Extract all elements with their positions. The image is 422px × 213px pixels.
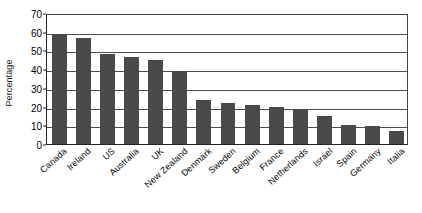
bar[interactable] bbox=[341, 125, 356, 144]
bar[interactable] bbox=[269, 107, 284, 144]
x-axis-tick-label: Israel bbox=[311, 146, 334, 169]
bar[interactable] bbox=[317, 116, 332, 144]
bar[interactable] bbox=[196, 100, 211, 144]
x-axis-tick-label: US bbox=[101, 146, 117, 162]
bar[interactable] bbox=[389, 131, 404, 144]
y-axis-title: Percentage bbox=[1, 28, 17, 138]
y-axis-tick-label: 20 bbox=[18, 102, 42, 113]
y-axis-tick-label: 0 bbox=[18, 140, 42, 151]
bar[interactable] bbox=[365, 126, 380, 144]
bar[interactable] bbox=[221, 103, 236, 144]
bar[interactable] bbox=[100, 54, 115, 144]
y-axis-tick-label: 70 bbox=[18, 9, 42, 20]
bar[interactable] bbox=[293, 109, 308, 144]
y-axis-tick-label: 50 bbox=[18, 46, 42, 57]
bar[interactable] bbox=[172, 71, 187, 144]
bar[interactable] bbox=[245, 105, 260, 144]
bar[interactable] bbox=[52, 34, 67, 144]
bar-chart: Percentage 010203040506070 CanadaIreland… bbox=[0, 0, 422, 213]
bar[interactable] bbox=[124, 57, 139, 144]
x-axis-tick-label: Canada bbox=[38, 146, 69, 175]
x-axis-tick-label: Italia bbox=[385, 146, 406, 167]
x-axis-tick-label: UK bbox=[149, 146, 165, 162]
bar[interactable] bbox=[148, 60, 163, 144]
y-axis-tick-label: 40 bbox=[18, 65, 42, 76]
y-axis-tick-label: 10 bbox=[18, 121, 42, 132]
plot-area bbox=[46, 14, 408, 145]
x-axis-category-labels: CanadaIrelandUSAustraliaUKNew ZealandDen… bbox=[46, 146, 408, 212]
bar-series bbox=[47, 15, 407, 144]
y-axis-title-text: Percentage bbox=[4, 59, 14, 106]
y-axis-tick-label: 30 bbox=[18, 83, 42, 94]
bar[interactable] bbox=[76, 38, 91, 144]
x-axis-tick-label: Ireland bbox=[65, 146, 93, 172]
y-axis-tick-label: 60 bbox=[18, 27, 42, 38]
